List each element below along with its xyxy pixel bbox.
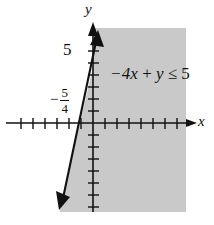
inequality-graph-figure: y x 5 − 5 4 −4x+y≤5 [0, 0, 214, 225]
inequality-variable-y: y [156, 64, 164, 83]
inequality-plus-sign: + [142, 64, 152, 83]
fraction-numerator: 5 [60, 86, 69, 99]
fraction-denominator: 4 [60, 102, 69, 115]
x-axis-label: x [198, 114, 205, 129]
inequality-left-term: −4x [110, 64, 138, 83]
inequality-relation-symbol: ≤ [168, 64, 178, 83]
graph-canvas [0, 0, 214, 225]
x-intercept-minus-sign: − [49, 92, 59, 107]
x-intercept-tick-label: − 5 4 [49, 86, 69, 116]
x-axis-arrowhead [186, 119, 197, 127]
inequality-annotation: −4x+y≤5 [110, 65, 190, 82]
y-intercept-tick-label: 5 [63, 41, 72, 58]
x-intercept-fraction: 5 4 [60, 86, 69, 116]
inequality-right-side: 5 [181, 64, 190, 83]
y-axis-label: y [85, 2, 92, 17]
